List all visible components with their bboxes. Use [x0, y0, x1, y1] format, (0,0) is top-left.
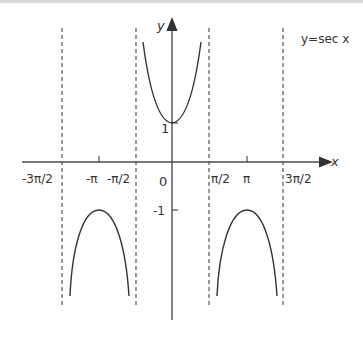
branch-right — [217, 210, 277, 296]
tick-label-neg-pi: -π — [86, 172, 98, 186]
sec-chart: x y y=sec x -3π/2 -π -π/2 0 π/2 π 3π/2 1… — [0, 0, 363, 338]
tick-label-pi-2: π/2 — [211, 172, 230, 186]
tick-label-3pi-2: 3π/2 — [285, 172, 312, 186]
y-tick-label-1: 1 — [161, 121, 169, 136]
x-axis-label: x — [330, 154, 339, 169]
curves — [70, 42, 277, 296]
branch-left — [70, 210, 129, 296]
tick-label-neg-3pi-2: -3π/2 — [22, 172, 53, 186]
tick-label-pi: π — [243, 172, 250, 186]
y-axis-label: y — [156, 18, 165, 33]
ticks — [99, 123, 247, 210]
legend-label: y=sec x — [301, 32, 349, 46]
tick-label-neg-pi-2: -π/2 — [107, 172, 130, 186]
y-tick-label-neg-1: -1 — [153, 204, 165, 218]
origin-label: 0 — [159, 174, 167, 189]
